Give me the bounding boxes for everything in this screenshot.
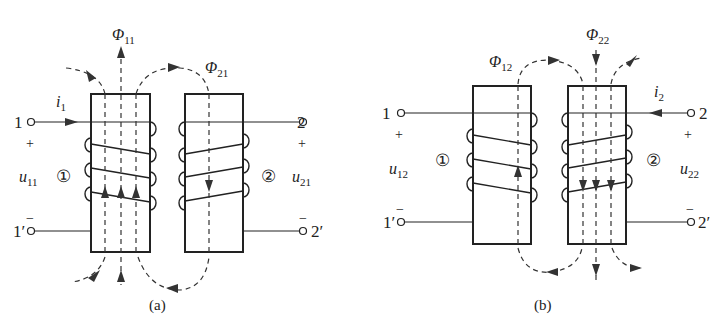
arrow-down-icon <box>607 180 615 192</box>
caption-b: (b) <box>534 297 552 314</box>
panel-a: Φ11 Φ21 i1 1 + 2 + u11 ① ② u21 1′ − 2′ −… <box>13 26 323 314</box>
panel-b: Φ22 Φ12 i2 1 + 2 + u12 ① ② u22 1′ − 2′ −… <box>382 26 710 314</box>
coil-label-2: ② <box>261 167 276 186</box>
core-2 <box>568 86 626 244</box>
flux-label-phi22: Φ22 <box>586 26 609 46</box>
terminal-2 <box>688 110 695 117</box>
arrow-right-icon <box>168 63 180 72</box>
flux-lines-a <box>66 50 209 290</box>
coil-2-winding <box>179 122 249 210</box>
arrow-up-icon <box>117 46 125 58</box>
coil-label-2: ② <box>646 151 661 170</box>
core-2 <box>185 94 243 252</box>
current-label-i1: i1 <box>56 93 66 113</box>
arrow-up-icon <box>132 186 140 198</box>
coil-label-1: ① <box>56 167 71 186</box>
arrow-icon <box>626 55 637 67</box>
terminal-label-2p: 2′ <box>311 222 323 241</box>
polarity-minus-1: − <box>396 202 404 217</box>
voltage-label-u11: u11 <box>19 168 38 188</box>
polarity-plus-1: + <box>26 136 34 151</box>
voltage-label-u22: u22 <box>680 160 699 180</box>
polarity-plus-2: + <box>298 136 306 151</box>
flux-lines-b <box>518 50 642 280</box>
arrow-up-icon <box>117 186 125 198</box>
core-1 <box>473 86 531 244</box>
terminal-label-1: 1 <box>382 104 391 123</box>
terminal-wires <box>35 122 299 231</box>
arrow-up-icon <box>101 186 109 198</box>
terminal-label-1p: 1′ <box>383 213 395 232</box>
arrow-right-icon <box>548 56 560 65</box>
voltage-label-u21: u21 <box>292 168 311 188</box>
flux-label-phi12: Φ12 <box>489 53 512 73</box>
polarity-minus-2: − <box>299 211 307 226</box>
coil-1-winding <box>467 113 537 202</box>
current-arrow-icon <box>649 109 662 117</box>
polarity-minus-1: − <box>26 211 34 226</box>
terminal-label-1p: 1′ <box>13 222 25 241</box>
arrow-icon <box>86 70 96 82</box>
polarity-plus-1: + <box>395 127 403 142</box>
terminal-1p <box>28 228 35 235</box>
terminal-label-1: 1 <box>14 113 23 132</box>
terminal-1p <box>398 219 405 226</box>
arrow-left-icon <box>546 268 558 276</box>
polarity-plus-2: + <box>684 127 692 142</box>
terminal-label-2: 2 <box>297 113 306 132</box>
flux-label-phi11: Φ11 <box>112 26 135 46</box>
arrow-down-icon <box>592 264 600 276</box>
coil-label-1: ① <box>435 151 450 170</box>
current-label-i2: i2 <box>654 83 664 103</box>
arrow-down-icon <box>592 54 600 66</box>
arrow-up-icon <box>117 270 125 282</box>
terminal-2p <box>688 219 695 226</box>
terminal-2p <box>300 228 307 235</box>
flux-label-phi21: Φ21 <box>205 59 228 79</box>
arrow-right-icon <box>630 264 642 272</box>
polarity-minus-2: − <box>686 202 694 217</box>
terminal-1 <box>28 119 35 126</box>
terminal-label-2: 2 <box>699 104 708 123</box>
voltage-label-u12: u12 <box>389 160 408 180</box>
arrow-down-icon <box>205 180 213 192</box>
caption-a: (a) <box>149 297 166 314</box>
arrow-icon <box>88 270 100 282</box>
coupled-inductor-diagram: Φ11 Φ21 i1 1 + 2 + u11 ① ② u21 1′ − 2′ −… <box>0 0 719 332</box>
current-arrow-icon <box>65 118 78 126</box>
terminal-label-2p: 2′ <box>698 213 710 232</box>
terminal-1 <box>398 110 405 117</box>
arrow-left-icon <box>166 284 178 293</box>
